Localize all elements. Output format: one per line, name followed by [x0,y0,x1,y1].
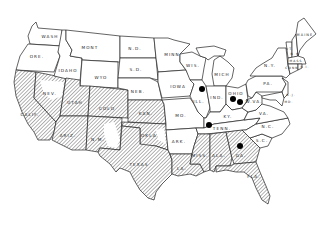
label-nev: NEV. [43,91,57,96]
label-mont: MONT [82,45,99,50]
label-maine: MAINE [297,33,314,37]
label-ariz: ARIZ. [60,133,77,138]
label-nj: N.J. [286,93,295,97]
label-conn: CONN. [285,66,300,70]
label-sc: S.C. [256,138,269,143]
label-ill: ILL. [193,99,205,104]
label-ala: ALA. [212,153,226,158]
label-miss: MISS. [192,153,209,158]
label-wyo: WYO [94,75,107,80]
label-la: LA. [177,166,187,171]
label-wash: WASH [42,34,59,39]
label-ri: R.I. [300,65,309,69]
label-calif: CALIF. [20,112,39,117]
label-nm: N.M. [91,137,105,142]
label-minn: MINN [164,52,180,57]
label-ark: ARK. [172,139,186,144]
state-md [262,92,284,106]
label-texas: TEXAS [128,162,148,167]
label-ky: KY. [224,114,233,119]
us-map: WASH ORE. CALIF. IDAHO NEV. MONT WYO UTA… [0,0,334,228]
label-vt: VT. [286,47,294,51]
label-pa: PA. [263,81,273,86]
label-wva: W.VA. [245,99,262,104]
label-colo: COLO [99,106,115,111]
dot-marker-ohio-1 [230,96,236,102]
state-colo [88,86,128,118]
label-ohio: OHIO [228,91,243,96]
label-okla: OKLA. [141,133,159,138]
label-ore: ORE. [30,54,45,59]
dot-marker-ga [237,143,243,149]
label-mo: MO. [175,113,186,118]
label-kan: KAN. [139,111,153,116]
dot-marker-ky [206,122,212,128]
label-iowa: IOWA [170,84,186,89]
dot-marker-ill [199,86,205,92]
label-mass: MASS. [290,59,305,63]
label-wis: WIS. [186,63,200,68]
dot-marker-ohio-2 [237,99,243,105]
label-ny: N.Y. [264,63,276,68]
state-fla [216,162,270,204]
label-nc: N.C. [261,124,274,129]
label-ind: IND. [210,95,223,100]
label-utah: UTAH [67,100,83,105]
label-nd: N.D. [128,46,141,51]
label-md: MD. [284,100,293,104]
label-mich: MICH [214,72,229,77]
label-idaho: IDAHO [58,68,77,73]
label-sd: S.D. [130,67,143,72]
label-fla: FLA. [247,174,260,179]
label-va: VA. [259,111,269,116]
state-maine [296,18,316,56]
label-nh: N.H. [291,52,302,56]
label-tenn: TENN. [212,126,231,131]
label-neb: NEB. [131,89,145,94]
label-ga: GA. [236,153,247,158]
state-wyo [80,60,118,88]
